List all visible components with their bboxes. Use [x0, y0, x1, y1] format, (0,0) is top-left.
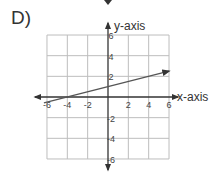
y-tick-label: -2 [107, 114, 115, 124]
y-axis-label: y-axis [114, 19, 145, 33]
x-axis-label: x-axis [177, 90, 208, 104]
arrow-down-icon [104, 0, 112, 5]
x-tick-label: 4 [146, 100, 151, 110]
y-tick-label: 4 [108, 52, 113, 62]
y-tick-label: 2 [108, 72, 113, 82]
x-tick-label: -4 [63, 100, 71, 110]
coordinate-plane: -6-4-2246642-2-4-6x-axisy-axis [0, 0, 213, 185]
y-tick-label: -4 [107, 134, 115, 144]
x-tick-label: -2 [84, 100, 92, 110]
y-tick-label: 6 [108, 31, 113, 41]
y-tick-label: -6 [107, 155, 115, 165]
x-tick-label: 2 [126, 100, 131, 110]
x-tick-label: 6 [167, 100, 172, 110]
